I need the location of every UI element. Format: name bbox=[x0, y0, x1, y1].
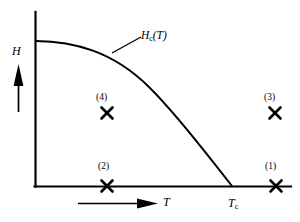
critical-field-curve bbox=[36, 41, 232, 186]
phase-diagram-figure: Hc(T) H T Tc (1) (2) (3) (4) bbox=[0, 0, 300, 222]
point-label-3: (3) bbox=[264, 93, 275, 103]
curve-label: Hc(T) bbox=[141, 30, 167, 43]
curve-label-argument: (T) bbox=[153, 29, 167, 41]
tc-label-base: T bbox=[228, 196, 235, 210]
point-label-2: (2) bbox=[98, 162, 109, 172]
point-label-1: (1) bbox=[265, 162, 276, 172]
y-axis-label: H bbox=[12, 45, 21, 57]
tc-label-subscript: c bbox=[235, 202, 239, 211]
x-axis-label: T bbox=[163, 196, 170, 208]
t-axis-arrow-icon bbox=[78, 198, 158, 208]
curve-label-leader-line bbox=[112, 37, 141, 53]
point-label-4: (4) bbox=[96, 93, 107, 103]
point-marker-3 bbox=[270, 108, 281, 119]
x-axis-tick-label-tc: Tc bbox=[228, 197, 238, 211]
h-axis-arrow-icon bbox=[14, 64, 24, 112]
point-marker-4 bbox=[102, 108, 113, 119]
